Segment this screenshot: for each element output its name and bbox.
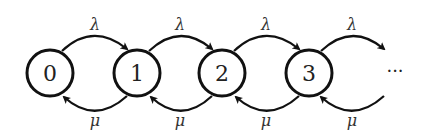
rate-label-mu: μ (175, 111, 185, 130)
transition-2-1 (151, 96, 212, 111)
rate-label-lambda: λ (260, 15, 271, 34)
markov-chain-diagram: λ λ λ λ μ μ μ μ 0 1 2 3 ··· (0, 0, 422, 137)
transition-1-2 (149, 36, 212, 51)
rate-label-lambda: λ (346, 15, 357, 34)
rate-label-lambda: λ (89, 15, 100, 34)
state-label: 0 (43, 61, 57, 86)
transition-next-3 (321, 96, 384, 111)
state-label: 2 (215, 61, 229, 86)
rate-label-mu: μ (261, 111, 271, 130)
rate-label-mu: μ (347, 111, 357, 130)
transition-3-2 (236, 96, 299, 111)
transition-2-3 (234, 36, 299, 51)
transition-1-0 (64, 96, 127, 111)
transition-3-next (321, 36, 384, 51)
rate-label-mu: μ (90, 111, 100, 130)
transition-0-1 (62, 36, 127, 51)
state-label: 3 (302, 61, 316, 86)
rate-label-lambda: λ (174, 15, 185, 34)
state-label: 1 (130, 61, 144, 86)
continuation-ellipsis: ··· (386, 60, 403, 81)
